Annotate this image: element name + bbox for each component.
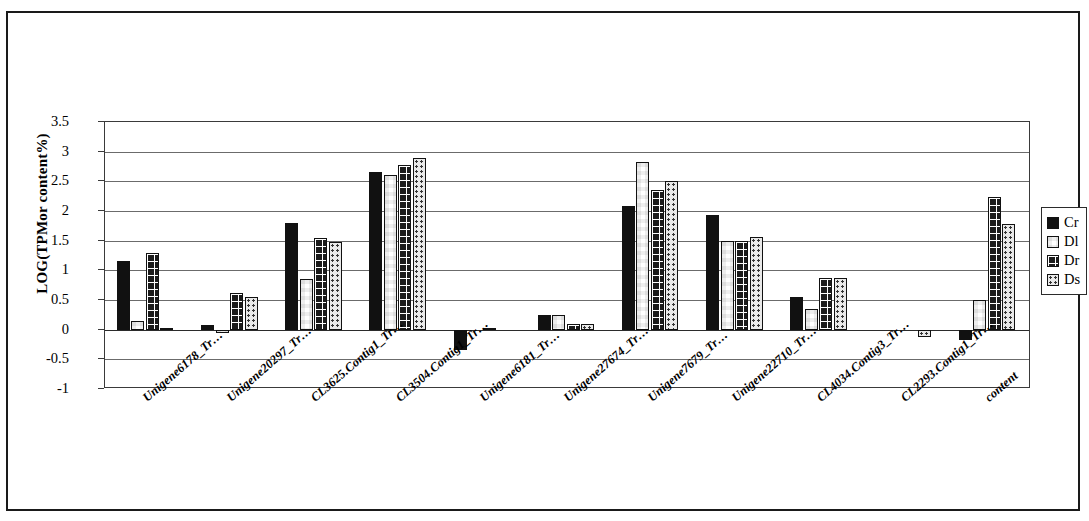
plot-area xyxy=(104,121,1030,388)
legend-item-dr: Dr xyxy=(1047,251,1080,270)
bar-dr xyxy=(230,293,243,330)
bar-cr xyxy=(538,315,551,330)
y-tick-label: -0.5 xyxy=(9,351,69,366)
bar-ds xyxy=(918,330,931,337)
bar-dr xyxy=(398,165,411,330)
legend-item-dl: Dl xyxy=(1047,232,1080,251)
bar-ds xyxy=(245,297,258,330)
y-tick-label: 1.5 xyxy=(9,233,69,248)
legend-swatch-icon xyxy=(1047,217,1059,229)
bar-cr xyxy=(790,297,803,330)
chart-legend: CrDlDrDs xyxy=(1041,207,1087,295)
bar-ds xyxy=(160,328,173,330)
y-tick-mark xyxy=(98,388,104,389)
legend-swatch-icon xyxy=(1047,236,1059,248)
bar-dl xyxy=(300,279,313,329)
y-tick-label: 3 xyxy=(9,144,69,159)
bar-ds xyxy=(834,278,847,330)
bar-dr xyxy=(146,253,159,330)
y-tick-label: 2 xyxy=(9,203,69,218)
bar-ds xyxy=(581,324,594,330)
bar-cr xyxy=(706,215,719,330)
bar-dr xyxy=(819,278,832,330)
legend-swatch-icon xyxy=(1047,255,1059,267)
bar-ds xyxy=(665,181,678,329)
legend-item-cr: Cr xyxy=(1047,213,1080,232)
bar-dr xyxy=(651,190,664,329)
bar-chart: LOG(TPMor content%) 3.532.521.510.50-0.5… xyxy=(8,13,1089,521)
bar-dl xyxy=(384,175,397,329)
figure-frame: LOG(TPMor content%) 3.532.521.510.50-0.5… xyxy=(6,11,1080,511)
y-tick-label: 1 xyxy=(9,262,69,277)
bar-dl xyxy=(721,241,734,330)
y-tick-label: -1 xyxy=(9,381,69,396)
bar-dr xyxy=(314,238,327,330)
bar-dr xyxy=(735,241,748,330)
bar-ds xyxy=(329,242,342,330)
legend-swatch-icon xyxy=(1047,274,1059,286)
bar-dl xyxy=(131,321,144,330)
legend-label: Dl xyxy=(1064,234,1079,249)
bar-dl xyxy=(552,315,565,330)
y-tick-label: 0 xyxy=(9,322,69,337)
legend-item-ds: Ds xyxy=(1047,270,1080,289)
legend-label: Ds xyxy=(1064,272,1080,287)
bar-ds xyxy=(1002,224,1015,330)
bar-cr xyxy=(369,172,382,329)
bar-cr xyxy=(622,206,635,329)
bar-cr xyxy=(201,325,214,330)
y-tick-label: 3.5 xyxy=(9,114,69,129)
bar-cr xyxy=(285,223,298,330)
y-tick-label: 2.5 xyxy=(9,173,69,188)
bar-group xyxy=(117,122,174,387)
bar-dr xyxy=(988,197,1001,329)
bar-ds xyxy=(413,158,426,330)
bar-cr xyxy=(117,261,130,329)
bar-dl xyxy=(636,162,649,329)
legend-label: Dr xyxy=(1064,253,1079,268)
y-tick-label: 0.5 xyxy=(9,292,69,307)
bar-ds xyxy=(750,237,763,330)
bar-dr xyxy=(567,324,580,330)
legend-label: Cr xyxy=(1064,215,1079,230)
